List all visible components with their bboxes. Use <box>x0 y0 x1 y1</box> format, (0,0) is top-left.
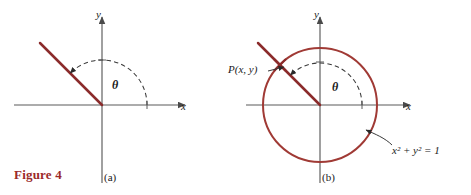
panel-b-theta-label: θ <box>332 81 338 93</box>
panel-a-label: (a) <box>104 172 116 183</box>
panel-b-angle-arc <box>290 63 362 105</box>
panel-b-equation-leader <box>366 130 392 145</box>
panel-b-point-label: P(x, y) <box>228 64 257 75</box>
panel-b-circle-equation: x² + y² = 1 <box>392 145 440 156</box>
figure-caption: Figure 4 <box>14 168 62 181</box>
panel-b-label: (b) <box>322 172 335 183</box>
panel-a-y-axis-label: y <box>96 9 101 20</box>
panel-a-group <box>14 17 185 183</box>
panel-a-x-axis-label: x <box>181 101 186 112</box>
figure-drawing <box>0 0 471 195</box>
panel-a-terminal-ray <box>40 43 102 105</box>
panel-b-group <box>246 17 410 183</box>
panel-b-y-axis-label: y <box>314 9 319 20</box>
panel-b-x-axis-label: x <box>406 101 411 112</box>
panel-a-theta-label: θ <box>112 79 118 91</box>
figure-container: x y θ (a) x y θ P(x, y) x² + y² = 1 (b) … <box>0 0 471 195</box>
panel-b-terminal-ray <box>258 43 320 105</box>
panel-a-angle-arc <box>70 60 147 105</box>
